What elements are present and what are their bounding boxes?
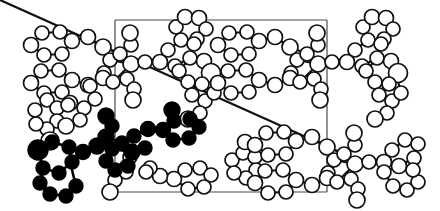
atom-highlighted bbox=[76, 145, 91, 160]
atom-open bbox=[24, 38, 39, 53]
atom-open bbox=[361, 33, 375, 47]
atom-open bbox=[102, 184, 118, 200]
atom-open bbox=[106, 75, 120, 89]
atom-open bbox=[174, 33, 188, 47]
atom-open bbox=[58, 118, 74, 134]
atom-open bbox=[187, 37, 201, 51]
atom-open bbox=[181, 182, 195, 196]
atom-highlighted bbox=[62, 140, 76, 154]
atom-open bbox=[268, 30, 283, 45]
atom-open bbox=[261, 186, 275, 200]
atom-open bbox=[330, 175, 344, 189]
atom-highlighted bbox=[45, 135, 59, 149]
atom-open bbox=[195, 77, 209, 91]
atom-open bbox=[325, 55, 339, 69]
atom-open bbox=[61, 98, 75, 112]
atom-open bbox=[224, 86, 238, 100]
atom-open bbox=[312, 92, 328, 108]
atom-highlighted bbox=[36, 161, 50, 175]
atom-open bbox=[385, 143, 399, 157]
atom-highlighted bbox=[164, 102, 180, 118]
atom-open bbox=[55, 47, 69, 61]
atom-open bbox=[252, 73, 267, 88]
atom-open bbox=[258, 164, 272, 178]
atom-open bbox=[88, 92, 102, 106]
atom-highlighted bbox=[108, 163, 122, 177]
atom-open bbox=[28, 103, 42, 117]
atom-open bbox=[305, 178, 320, 193]
atom-highlighted bbox=[141, 122, 156, 137]
atom-highlighted bbox=[69, 179, 83, 193]
atom-open bbox=[34, 64, 48, 78]
atom-open bbox=[239, 63, 253, 77]
atom-open bbox=[122, 25, 138, 41]
atom-open bbox=[252, 34, 267, 49]
atom-open bbox=[372, 88, 386, 102]
atom-open bbox=[73, 113, 87, 127]
atom-highlighted bbox=[182, 131, 196, 145]
atom-open bbox=[377, 165, 391, 179]
atom-open bbox=[359, 64, 373, 78]
atom-open bbox=[222, 26, 236, 40]
atom-open bbox=[268, 78, 283, 93]
atom-open bbox=[172, 64, 186, 78]
atom-open bbox=[24, 76, 39, 91]
atom-open bbox=[305, 130, 320, 145]
atom-open bbox=[406, 163, 420, 177]
atom-open bbox=[242, 47, 256, 61]
atom-open bbox=[178, 163, 192, 177]
atom-open bbox=[382, 77, 396, 91]
atom-open bbox=[138, 55, 152, 69]
atom-open bbox=[386, 179, 400, 193]
crystal-structure-figure bbox=[0, 0, 440, 211]
atom-highlighted bbox=[98, 108, 114, 124]
atom-open bbox=[279, 185, 293, 199]
atom-open bbox=[65, 73, 80, 88]
atom-open bbox=[289, 173, 304, 188]
atom-open bbox=[362, 155, 376, 169]
atom-open bbox=[261, 148, 275, 162]
atom-open bbox=[197, 180, 211, 194]
atom-open bbox=[161, 43, 175, 57]
atom-open bbox=[289, 134, 304, 149]
atom-open bbox=[348, 43, 362, 57]
atom-open bbox=[224, 48, 238, 62]
atom-highlighted bbox=[192, 120, 206, 134]
atom-open bbox=[309, 25, 325, 41]
atom-highlighted bbox=[138, 141, 152, 155]
atom-open bbox=[242, 85, 256, 99]
atom-open bbox=[411, 137, 425, 151]
atom-open bbox=[221, 64, 235, 78]
atom-open bbox=[367, 111, 383, 127]
atom-open bbox=[211, 38, 226, 53]
atom-highlighted bbox=[33, 176, 47, 190]
atom-highlighted bbox=[166, 133, 180, 147]
atom-open bbox=[83, 79, 97, 93]
atom-open bbox=[293, 75, 307, 89]
atom-open bbox=[227, 166, 241, 180]
atom-highlighted bbox=[52, 166, 66, 180]
atom-open bbox=[392, 159, 407, 174]
atom-open bbox=[185, 88, 199, 102]
atom-open bbox=[81, 30, 96, 45]
atom-open bbox=[29, 117, 43, 131]
crystal-packing-canvas bbox=[0, 0, 440, 211]
atom-open bbox=[370, 51, 384, 65]
atom-open bbox=[183, 51, 197, 65]
atom-open bbox=[139, 165, 153, 179]
atom-open bbox=[349, 192, 365, 208]
atom-open bbox=[65, 34, 80, 49]
atom-open bbox=[248, 176, 263, 191]
atom-highlighted bbox=[43, 187, 57, 201]
atom-open bbox=[37, 48, 51, 62]
atom-open bbox=[248, 138, 263, 153]
atom-open bbox=[374, 37, 388, 51]
atom-open bbox=[125, 92, 141, 108]
atom-open bbox=[52, 63, 66, 77]
atom-open bbox=[398, 133, 412, 147]
atom-open bbox=[346, 125, 362, 141]
atom-open bbox=[35, 26, 49, 40]
atom-open bbox=[259, 126, 273, 140]
atom-highlighted bbox=[121, 159, 135, 173]
atom-open bbox=[365, 10, 380, 25]
